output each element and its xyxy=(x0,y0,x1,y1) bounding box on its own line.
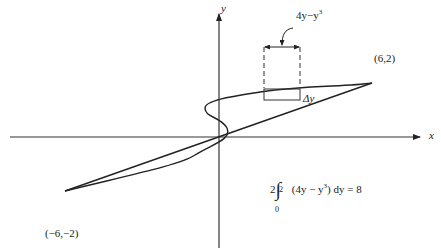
point-label-lower: (−6,−2) xyxy=(45,227,78,239)
pointer-arrow xyxy=(282,28,293,45)
point-label-upper: (6,2) xyxy=(374,52,395,64)
x-axis-label: x xyxy=(429,129,434,141)
integral-equation: 2∫20 (4y − y3) dy = 8 xyxy=(270,175,362,198)
area-diagram xyxy=(0,0,441,252)
y-axis-label: y xyxy=(221,2,226,14)
strip-width-label: 4y−y3 xyxy=(296,8,322,21)
delta-y-label: Δy xyxy=(303,92,314,104)
